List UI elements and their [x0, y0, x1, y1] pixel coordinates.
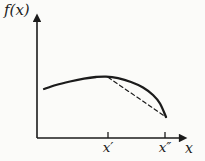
- x-axis-label: x: [185, 141, 193, 155]
- tick-label-x-prime: x′: [103, 141, 114, 155]
- y-axis-label: f(x): [4, 3, 30, 18]
- tick-label-x-double-prime: x″: [159, 141, 172, 155]
- figure-canvas: [0, 0, 205, 161]
- function-plot-figure: f(x) x x′ x″: [0, 0, 205, 161]
- function-curve: [44, 77, 166, 117]
